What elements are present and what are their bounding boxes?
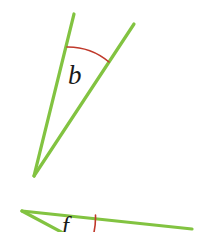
angle-b-left-ray (34, 14, 74, 176)
angle-f-group (22, 211, 192, 232)
angle-b-group (34, 14, 134, 176)
angle-label-f: f (62, 213, 69, 232)
angle-figure-canvas: b f (0, 0, 203, 232)
angle-label-b: b (68, 62, 82, 89)
geometry-drawing (0, 0, 203, 232)
angle-b-right-ray (34, 24, 134, 176)
